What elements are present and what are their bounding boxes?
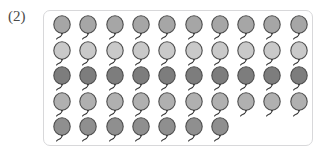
balloon-icon xyxy=(207,91,233,117)
balloon-icon xyxy=(75,116,101,142)
balloon-icon xyxy=(75,65,101,91)
balloon-icon xyxy=(102,116,128,142)
balloon-icon xyxy=(181,116,207,142)
item-number-label: (2) xyxy=(8,9,26,24)
balloon-icon xyxy=(233,14,259,40)
balloon-icon xyxy=(259,14,285,40)
balloon-icon xyxy=(102,14,128,40)
balloon-panel xyxy=(43,10,313,146)
balloon-row xyxy=(44,14,312,40)
balloon-icon xyxy=(207,116,233,142)
balloon-icon xyxy=(286,91,312,117)
balloon-icon xyxy=(286,14,312,40)
balloon-icon xyxy=(102,91,128,117)
balloon-grid xyxy=(44,11,312,145)
balloon-icon xyxy=(154,91,180,117)
balloon-icon xyxy=(49,14,75,40)
balloon-icon xyxy=(102,65,128,91)
balloon-icon xyxy=(181,91,207,117)
balloon-icon xyxy=(75,91,101,117)
balloon-icon xyxy=(259,65,285,91)
balloon-icon xyxy=(154,14,180,40)
balloon-icon xyxy=(233,91,259,117)
balloon-icon xyxy=(128,116,154,142)
balloon-icon xyxy=(128,40,154,66)
balloon-icon xyxy=(181,65,207,91)
balloon-icon xyxy=(259,40,285,66)
balloon-icon xyxy=(259,91,285,117)
balloon-row xyxy=(44,91,312,117)
balloon-icon xyxy=(233,65,259,91)
balloon-icon xyxy=(233,40,259,66)
balloon-icon xyxy=(207,14,233,40)
balloon-icon xyxy=(102,40,128,66)
balloon-row xyxy=(44,116,312,142)
balloon-icon xyxy=(75,40,101,66)
balloon-icon xyxy=(181,40,207,66)
balloon-icon xyxy=(286,65,312,91)
figure-root: (2) xyxy=(0,0,323,156)
balloon-icon xyxy=(207,40,233,66)
balloon-icon xyxy=(128,14,154,40)
balloon-icon xyxy=(154,65,180,91)
balloon-row xyxy=(44,65,312,91)
balloon-icon xyxy=(49,91,75,117)
balloon-icon xyxy=(286,40,312,66)
balloon-icon xyxy=(128,91,154,117)
balloon-icon xyxy=(154,40,180,66)
balloon-icon xyxy=(49,65,75,91)
balloon-icon xyxy=(49,40,75,66)
balloon-icon xyxy=(75,14,101,40)
balloon-row xyxy=(44,40,312,66)
balloon-icon xyxy=(207,65,233,91)
balloon-icon xyxy=(49,116,75,142)
balloon-icon xyxy=(128,65,154,91)
balloon-icon xyxy=(154,116,180,142)
balloon-icon xyxy=(181,14,207,40)
